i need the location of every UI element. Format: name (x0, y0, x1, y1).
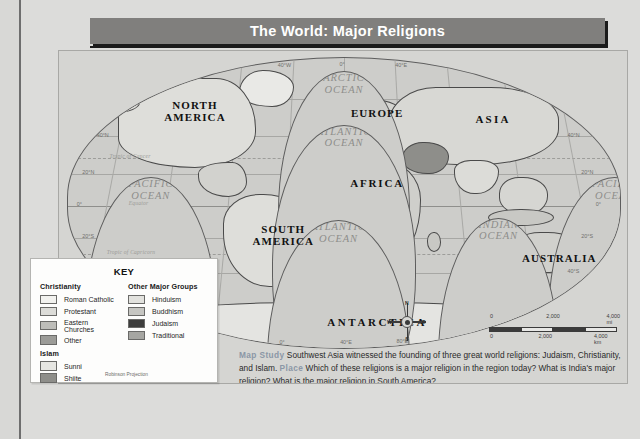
scale-miles-ticks: 0 2,000 4,000 mi (489, 313, 617, 320)
map-study-caption: Map Study Southwest Asia witnessed the f… (239, 349, 621, 384)
legend-swatch-judaism (128, 319, 145, 329)
legend-label-judaism: Judaism (152, 320, 178, 327)
landmass-madagascar (427, 232, 441, 252)
legend-item: Traditional (128, 331, 208, 341)
title-rule (90, 46, 608, 48)
legend-label-roman-catholic: Roman Catholic (64, 296, 114, 303)
scale-bar-miles (489, 327, 617, 332)
legend-swatch-hinduism (128, 295, 145, 305)
legend-heading-christianity: Christianity (40, 282, 120, 291)
legend-label-buddhism: Buddhism (152, 308, 183, 315)
page-root: The World: Major Religions (0, 0, 640, 439)
landmass-new-zealand (587, 267, 606, 284)
landmass-australia (510, 232, 582, 273)
legend-heading-other-major-groups: Other Major Groups (128, 282, 208, 291)
legend-label-eastern-churches: Eastern Churches (64, 319, 120, 333)
legend-swatch-sunni (40, 361, 57, 371)
landmass-central-america (198, 162, 248, 197)
scale-seg-4 (585, 327, 617, 332)
legend-column-right: Other Major Groups Hinduism Buddhism Jud… (128, 282, 208, 385)
legend-swatch-buddhism (128, 307, 145, 317)
scale-miles-tick-1: 2,000 (546, 313, 560, 319)
legend-label-sunni: Sunni (64, 363, 82, 370)
legend-columns: Christianity Roman Catholic Protestant E… (31, 277, 217, 385)
legend-swatch-other-christian (40, 335, 57, 345)
legend-swatch-traditional (128, 331, 145, 341)
legend-label-protestant: Protestant (64, 308, 96, 315)
compass-east-label: E (422, 319, 425, 325)
map-legend: KEY Christianity Roman Catholic Protesta… (30, 258, 218, 383)
legend-item: Buddhism (128, 307, 208, 317)
lon-label-top-2: 80°W (219, 63, 232, 69)
legend-label-hinduism: Hinduism (152, 296, 181, 303)
legend-swatch-eastern-churches (40, 321, 57, 331)
legend-label-shiite: Shiite (64, 375, 82, 382)
lon-label-top-0: 160°W (98, 67, 114, 73)
compass-south-label: S (405, 336, 408, 342)
legend-label-traditional: Traditional (152, 332, 184, 339)
compass-west-label: W (387, 319, 392, 325)
lon-label-top-1: 120°W (157, 64, 173, 70)
compass-rose-icon: N S E W (384, 301, 430, 343)
lon-label-top-3: 40°W (278, 62, 291, 68)
lon-label-top-8: 160°E (568, 67, 583, 73)
legend-item: Roman Catholic (40, 295, 120, 305)
scale-miles-tick-0: 0 (490, 313, 493, 319)
scale-km-tick-1: 2,000 (539, 333, 553, 339)
lon-label-top-6: 80°E (454, 63, 466, 69)
landmass-alaska (90, 87, 140, 113)
page-gutter (19, 0, 21, 439)
caption-lead-place: Place (280, 363, 304, 373)
legend-item: Judaism (128, 319, 208, 329)
landmass-africa (327, 160, 421, 259)
legend-item: Protestant (40, 307, 120, 317)
scale-seg-2 (521, 327, 553, 332)
landmass-north-america (118, 78, 256, 168)
legend-label-other-christian: Other (64, 337, 82, 344)
legend-item: Hinduism (128, 295, 208, 305)
caption-lead-map-study: Map Study (239, 350, 285, 360)
landmass-middle-east (402, 142, 449, 174)
legend-swatch-roman-catholic (40, 295, 57, 305)
projection-note: Robinson Projection (105, 372, 148, 377)
scale-km-ticks: 0 2,000 4,000 km (489, 333, 617, 340)
scale-km-tick-0: 0 (490, 333, 493, 339)
graticule-lon-160e (551, 57, 612, 349)
legend-item: Sunni (40, 361, 120, 371)
legend-swatch-protestant (40, 307, 57, 317)
map-title-banner: The World: Major Religions (90, 18, 605, 44)
scale-seg-1 (489, 327, 521, 332)
scale-miles-tick-2: 4,000 mi (606, 313, 620, 325)
compass-hub (405, 320, 410, 325)
legend-column-left: Christianity Roman Catholic Protestant E… (40, 282, 120, 385)
compass-north-label: N (405, 300, 409, 306)
map-scale-bar: 0 2,000 4,000 mi 0 2,000 4,000 km (489, 313, 617, 340)
scale-km-tick-2: 4,000 km (594, 333, 609, 345)
lon-label-top-5: 40°E (395, 62, 407, 68)
legend-swatch-shiite (40, 373, 57, 383)
landmass-indonesia (488, 209, 554, 226)
page-title: The World: Major Religions (250, 23, 445, 39)
legend-item: Other (40, 335, 120, 345)
lon-label-top-7: 120°E (513, 64, 528, 70)
legend-item: Eastern Churches (40, 319, 120, 333)
scale-seg-3 (553, 327, 585, 332)
legend-title: KEY (31, 266, 217, 277)
landmass-india (454, 160, 498, 195)
legend-heading-islam: Islam (40, 349, 120, 358)
